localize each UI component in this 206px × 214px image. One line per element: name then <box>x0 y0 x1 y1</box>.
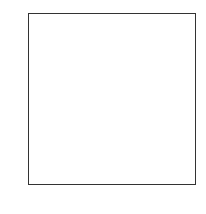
image-axes <box>28 13 196 185</box>
digit-image-heatmap <box>29 14 195 184</box>
